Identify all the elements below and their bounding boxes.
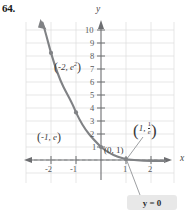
asymptote-callout-box: y = 0 xyxy=(127,195,177,210)
point-label-zero: (0, 1) xyxy=(104,145,124,155)
y-tick-label-10: 10 xyxy=(85,25,94,35)
graph-canvas xyxy=(0,0,196,216)
point-label-neg-two-x: -2, xyxy=(58,62,70,72)
x-axis-label: x xyxy=(180,153,184,163)
leader-line-asymptote-callout xyxy=(127,161,140,195)
y-tick-label-3: 3 xyxy=(90,116,94,126)
y-tick-label-4: 4 xyxy=(90,103,94,113)
point-marker-neg1 xyxy=(74,110,78,114)
leader-line-point-one xyxy=(128,137,144,158)
y-tick-label-5: 5 xyxy=(90,90,94,100)
y-axis-arrow-top xyxy=(98,20,104,29)
y-tick-label-8: 8 xyxy=(90,51,94,61)
x-tick-label-neg2: -2 xyxy=(45,164,52,174)
y-tick-label-2: 2 xyxy=(90,129,94,139)
paren-close: ) xyxy=(77,60,81,74)
point-label-neg-one-x: -1, xyxy=(41,132,53,142)
curve-arrow-upper-left xyxy=(38,19,47,30)
x-tick-label-1: 1 xyxy=(123,164,127,174)
point-label-neg-two: (-2, e2) xyxy=(54,60,81,75)
y-tick-label-9: 9 xyxy=(90,38,94,48)
point-label-neg-one: (-1, e) xyxy=(37,130,61,145)
paren-close: ) xyxy=(151,121,157,140)
point-marker-neg2 xyxy=(49,51,53,55)
point-label-one: (1, 1e) xyxy=(133,121,157,136)
point-marker-zero xyxy=(99,145,103,149)
y-tick-label-6: 6 xyxy=(90,77,94,87)
grid-horizontal-lines xyxy=(26,30,174,173)
exponential-decay-graph-figure: 64. xyxy=(0,0,196,216)
y-axis-label: y xyxy=(96,4,100,14)
x-axis-arrow-left xyxy=(24,157,32,163)
point-label-one-x: 1, xyxy=(139,123,148,133)
asymptote-callout-label: y = 0 xyxy=(143,198,162,208)
x-tick-label-2: 2 xyxy=(148,164,152,174)
x-tick-label-neg1: -1 xyxy=(70,164,77,174)
paren-close: ) xyxy=(57,130,61,144)
y-tick-label-1: 1 xyxy=(92,142,96,152)
y-tick-label-7: 7 xyxy=(90,64,94,74)
